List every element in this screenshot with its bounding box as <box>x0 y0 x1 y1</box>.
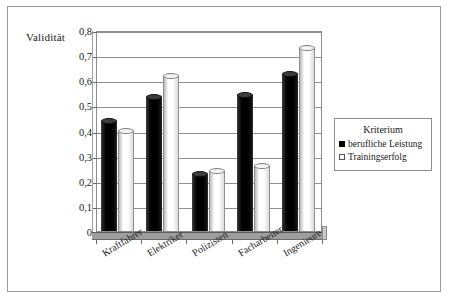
bar-cap <box>237 92 253 98</box>
bar-body <box>146 97 162 231</box>
y-tick-mark <box>93 158 97 159</box>
bar-body <box>282 74 298 231</box>
y-axis-title: Validität <box>26 31 65 43</box>
bar-body <box>299 48 315 231</box>
y-tick-label: 0,5 <box>79 102 92 113</box>
legend-entry: berufliche Leistung <box>339 138 427 151</box>
bar-body <box>209 171 225 231</box>
bar <box>146 94 162 231</box>
bar <box>209 168 225 231</box>
y-tick-label: 0,2 <box>79 177 92 188</box>
legend-entry-label: Trainingserfolg <box>348 151 407 164</box>
y-tick-mark <box>93 208 97 209</box>
bar <box>192 171 208 231</box>
x-tick-mark <box>186 240 187 244</box>
bar <box>163 73 179 231</box>
bar <box>299 45 315 231</box>
bar-body <box>101 121 117 231</box>
x-tick-mark <box>96 240 97 244</box>
bar-body <box>254 166 270 231</box>
y-tick-label: 0,7 <box>79 51 92 62</box>
x-tick-mark <box>141 240 142 244</box>
plot-area: 00,10,20,30,40,50,60,70,8 <box>96 31 322 232</box>
y-tick-mark <box>93 82 97 83</box>
x-tick-mark <box>322 240 323 244</box>
bar-cap <box>192 171 208 177</box>
bar-cap <box>118 128 134 134</box>
bar-cap <box>299 45 315 51</box>
y-tick-label: 0,6 <box>79 77 92 88</box>
y-tick-mark <box>93 133 97 134</box>
bar-cap <box>209 168 225 174</box>
bar <box>101 118 117 231</box>
bar-body <box>237 95 253 231</box>
legend-entries: berufliche LeistungTrainingserfolg <box>339 138 427 164</box>
y-tick-mark <box>93 32 97 33</box>
gridline <box>97 57 321 58</box>
legend-entry-label: berufliche Leistung <box>348 138 422 151</box>
legend-entry: Trainingserfolg <box>339 151 427 164</box>
y-tick-mark <box>93 57 97 58</box>
bar <box>237 92 253 231</box>
bar-cap <box>101 118 117 124</box>
y-tick-mark <box>93 107 97 108</box>
chart-figure: Validität 00,10,20,30,40,50,60,70,8 Kraf… <box>0 0 449 299</box>
bar-body <box>163 76 179 231</box>
bar-body <box>118 131 134 231</box>
x-tick-mark <box>232 240 233 244</box>
bar <box>254 163 270 231</box>
chart-floor-right-edge <box>322 226 327 240</box>
y-tick-label: 0,4 <box>79 127 92 138</box>
y-tick-mark <box>93 183 97 184</box>
bar <box>118 128 134 231</box>
legend-title: Kriterium <box>339 124 427 135</box>
legend-swatch-light <box>339 154 345 160</box>
bar-body <box>192 174 208 231</box>
legend: Kriterium berufliche LeistungTrainingser… <box>334 118 432 171</box>
bar-cap <box>163 73 179 79</box>
bar <box>282 71 298 231</box>
legend-swatch-dark <box>339 141 345 147</box>
y-tick-label: 0,1 <box>79 202 92 213</box>
gridline <box>97 32 321 33</box>
y-tick-label: 0,3 <box>79 152 92 163</box>
x-tick-mark <box>277 240 278 244</box>
y-tick-label: 0,8 <box>79 26 92 37</box>
